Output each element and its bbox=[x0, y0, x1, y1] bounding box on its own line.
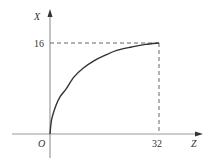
origin-label: O bbox=[38, 138, 45, 149]
chart: X Z O 16 32 bbox=[0, 0, 212, 163]
x-axis-arrow-icon bbox=[195, 132, 203, 137]
y-axis-arrow-icon bbox=[48, 9, 53, 17]
y-tick-label: 16 bbox=[34, 38, 44, 49]
y-axis-label: X bbox=[33, 11, 41, 22]
x-axis-label: Z bbox=[191, 138, 197, 149]
data-curve bbox=[50, 43, 159, 134]
x-tick-label: 32 bbox=[152, 138, 162, 149]
